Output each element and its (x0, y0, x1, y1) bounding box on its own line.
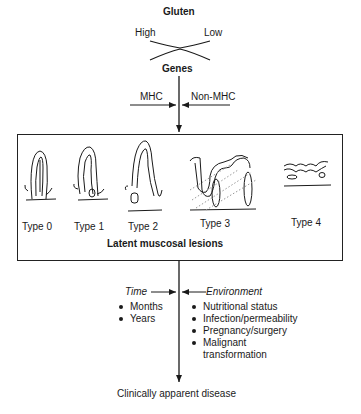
environment-item: Nutritional status (191, 301, 321, 313)
environment-item: Infection/permeability (191, 313, 321, 325)
type1-label: Type 1 (74, 221, 104, 232)
lesions-caption: Latent muscosal lesions (107, 238, 223, 249)
time-item: Months (118, 301, 163, 313)
time-label: Time (125, 286, 147, 297)
type2-label: Type 2 (128, 221, 158, 232)
type3-label: Type 3 (200, 218, 230, 229)
outcome-label: Clinically apparent disease (117, 388, 236, 399)
environment-item: Malignant transformation (191, 337, 273, 361)
time-list: Months Years (118, 301, 163, 325)
time-item: Years (118, 313, 163, 325)
environment-item: Pregnancy/surgery (191, 325, 321, 337)
villus-type1-icon (74, 147, 108, 200)
villus-type3-icon (190, 155, 256, 210)
type4-label: Type 4 (291, 217, 321, 228)
villus-type2-icon (125, 141, 162, 211)
villus-type0-icon (25, 151, 56, 200)
environment-label: Environment (206, 286, 262, 297)
type0-label: Type 0 (22, 221, 52, 232)
villus-type4-icon (284, 162, 331, 187)
environment-list: Nutritional status Infection/permeabilit… (191, 301, 321, 361)
